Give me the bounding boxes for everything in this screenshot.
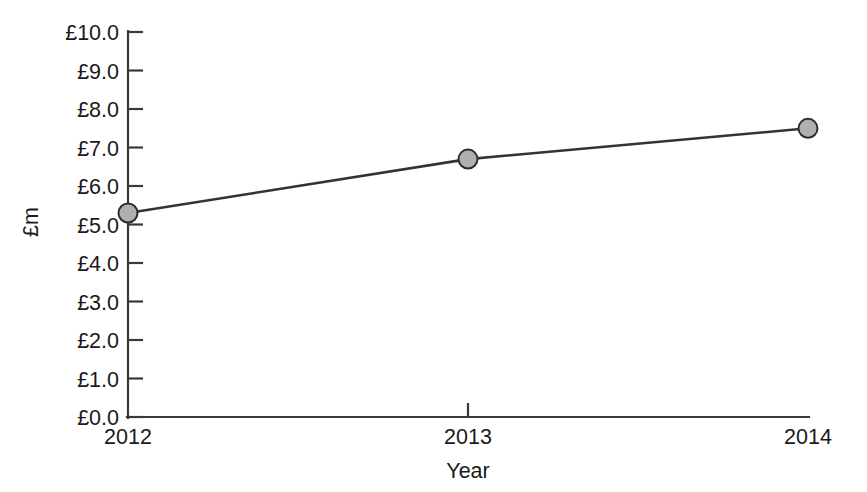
y-tick-label: £3.0 (77, 291, 119, 315)
line-chart: £10.0 £9.0 £8.0 £7.0 £6.0 £5.0 £4.0 £3.0… (0, 0, 867, 492)
data-point-marker (799, 119, 818, 138)
data-point-marker (119, 204, 138, 223)
y-axis-ticks (128, 32, 143, 417)
y-axis-tick-labels: £10.0 £9.0 £8.0 £7.0 £6.0 £5.0 £4.0 £3.0… (65, 21, 119, 430)
series-markers (119, 119, 818, 223)
data-point-marker (459, 150, 478, 169)
y-tick-label: £1.0 (77, 368, 119, 392)
y-tick-label: £10.0 (65, 21, 119, 45)
y-tick-label: £6.0 (77, 175, 119, 199)
x-axis-tick-labels: 2012 2013 2014 (104, 425, 832, 449)
x-axis-title: Year (446, 459, 489, 483)
y-tick-label: £2.0 (77, 329, 119, 353)
y-tick-label: £9.0 (77, 60, 119, 84)
y-tick-label: £4.0 (77, 252, 119, 276)
x-tick-label: 2013 (444, 425, 492, 449)
y-tick-label: £5.0 (77, 214, 119, 238)
x-tick-label: 2014 (784, 425, 832, 449)
y-axis-title: £m (19, 207, 43, 237)
y-tick-label: £7.0 (77, 137, 119, 161)
x-tick-label: 2012 (104, 425, 152, 449)
chart-canvas: £10.0 £9.0 £8.0 £7.0 £6.0 £5.0 £4.0 £3.0… (0, 0, 867, 492)
series-line (128, 128, 808, 213)
y-tick-label: £8.0 (77, 98, 119, 122)
